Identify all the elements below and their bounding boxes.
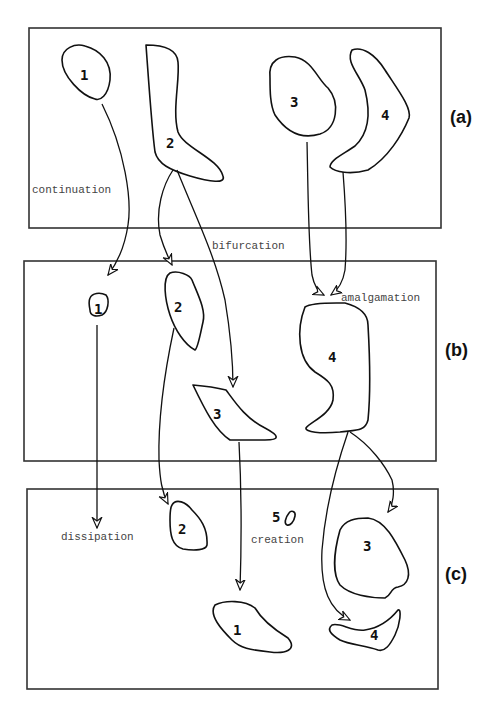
panel-b-label: (b): [445, 340, 468, 360]
arrow-a4-to-b4: [331, 172, 346, 295]
arrow-a2-to-b2: [158, 170, 173, 265]
object-b1-label: 1: [94, 301, 102, 317]
object-b2: [165, 272, 204, 350]
panel-a-frame: [29, 28, 441, 228]
event-bifurcation: bifurcation: [212, 240, 285, 252]
event-creation: creation: [251, 534, 304, 546]
object-c2-label: 2: [178, 521, 186, 537]
panel-c-label: (c): [445, 564, 467, 584]
object-a3: [270, 57, 336, 136]
arrow-a2-to-b3: [177, 170, 233, 387]
object-b3-label: 3: [213, 406, 221, 422]
object-c1-label: 1: [233, 622, 241, 638]
event-amalgamation: amalgamation: [341, 292, 420, 304]
object-c3-label: 3: [363, 538, 371, 554]
arrow-a3-to-b4: [307, 142, 324, 295]
object-b2-label: 2: [174, 299, 182, 315]
object-a2-label: 2: [166, 135, 174, 151]
panel-a-label: (a): [450, 107, 472, 127]
event-dissipation: dissipation: [61, 531, 134, 543]
event-continuation: continuation: [32, 184, 111, 196]
panel-b-frame: [24, 261, 436, 461]
object-c4-label: 4: [370, 627, 378, 643]
object-c2: [170, 501, 207, 550]
object-a1-label: 1: [80, 67, 88, 83]
arrow-b3-to-c1: [239, 442, 241, 590]
object-a3-label: 3: [290, 94, 298, 110]
object-b4: [300, 303, 370, 433]
object-b3: [193, 385, 276, 440]
panel-c-frame: [27, 489, 438, 689]
object-c1: [213, 602, 291, 653]
object-c3: [335, 518, 409, 598]
object-b4-label: 4: [328, 349, 336, 365]
arrow-b4-to-c3: [350, 432, 393, 512]
arrow-b2-to-c2: [159, 328, 174, 504]
object-a4: [330, 49, 409, 173]
object-c5-label: 5: [272, 509, 280, 525]
object-c5: [285, 511, 295, 525]
object-a2: [146, 45, 223, 181]
object-a4-label: 4: [381, 107, 389, 123]
feature-tracking-diagram: (a) (b) (c) 1 2 3 4 continuation 1 2 3 4…: [0, 0, 499, 713]
object-c4: [330, 610, 401, 651]
